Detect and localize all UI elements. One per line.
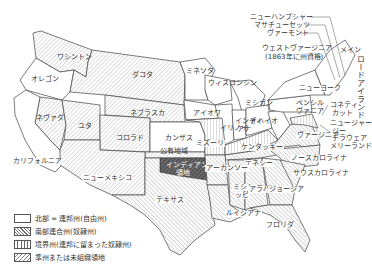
label-colorado: コロラド — [116, 135, 144, 142]
label-kansas: カンザス — [165, 135, 193, 142]
legend-label: 境界州(連邦に留まった奴隷州) — [35, 239, 131, 249]
label-west-virginia-2: (1863年に州資格) — [265, 54, 323, 61]
label-louisiana: ルイジアナ — [225, 210, 262, 217]
label-oregon: オレゴン — [30, 76, 60, 83]
label-wisconsin: ウィスコンシン — [208, 80, 257, 87]
swatch-south-icon — [14, 227, 31, 236]
label-arkansas: アーカンソー — [205, 165, 249, 172]
label-michigan: ミシガン — [245, 100, 273, 107]
label-vermont: ヴァーモント — [267, 30, 309, 37]
label-connecticut-1: コネティ — [330, 102, 358, 109]
label-iowa: アイオワ — [193, 110, 221, 117]
label-new-jersey-1: ニュージャー — [330, 120, 372, 127]
label-indian-territory-1: インディアン — [166, 162, 208, 169]
legend: 北部 = 連邦州(自由州) 南部連合州(奴隷州) 境界州(連邦に留まった奴隷州)… — [14, 212, 131, 264]
label-maine: メイン — [340, 47, 361, 54]
label-kentucky: ケンタッキー — [240, 144, 284, 151]
legend-item-territory: 準州または未組織領地 — [14, 251, 131, 263]
legend-item-south: 南部連合州(奴隷州) — [14, 225, 131, 237]
label-georgia: ジョージア — [268, 186, 305, 193]
label-california: カリフォルニア — [12, 158, 63, 165]
label-rhode-island: ロードアイランド — [355, 55, 363, 119]
label-connecticut-2: カット — [332, 110, 353, 117]
label-pennsylvania-2: ヴァニア — [296, 108, 324, 115]
legend-item-north: 北部 = 連邦州(自由州) — [14, 212, 131, 224]
legend-label: 準州または未組織領地 — [35, 252, 105, 262]
label-south-carolina: サウスカロライナ — [292, 170, 350, 177]
label-nebraska: ネブラスカ — [130, 110, 165, 117]
label-pennsylvania-1: ペンシル — [296, 100, 324, 107]
label-ohio: オハイオ — [250, 118, 278, 125]
label-public-land: 公有地域 — [160, 148, 188, 155]
label-mississippi-2: ッピ — [234, 192, 250, 199]
label-massachusetts: マサチューセッツ — [254, 22, 310, 29]
label-utah: ユタ — [78, 123, 92, 130]
label-nevada: ネヴァダ — [36, 115, 64, 122]
legend-item-border: 境界州(連邦に留まった奴隷州) — [14, 238, 131, 250]
label-north-carolina: ノースカロライナ — [290, 155, 348, 162]
label-new-hampshire: ニューハンプシャー — [250, 14, 313, 21]
label-west-virginia-1: ウェストヴァージニア — [262, 45, 332, 52]
label-texas: テキサス — [155, 197, 185, 204]
label-missouri: ミズーリ — [195, 140, 225, 147]
label-new-mexico: ニューメキシコ — [82, 175, 133, 182]
swatch-territory-icon — [14, 253, 31, 262]
swatch-border-icon — [14, 240, 31, 249]
label-delaware: デラウェア — [332, 135, 367, 142]
legend-label: 北部 = 連邦州(自由州) — [35, 213, 107, 223]
label-minnesota: ミネソタ — [186, 68, 214, 75]
label-washington: ワシントン — [57, 54, 92, 61]
swatch-north-icon — [14, 214, 31, 223]
label-dakota: ダコタ — [132, 72, 153, 79]
label-new-york: ニューヨーク — [298, 85, 342, 92]
label-indian-territory-2: 領地 — [176, 170, 190, 177]
label-florida: フロリダ — [265, 222, 295, 229]
legend-label: 南部連合州(奴隷州) — [35, 226, 96, 236]
region-utah — [62, 100, 100, 140]
label-maryland: メリーランド — [330, 143, 372, 150]
label-indiana-2: アナ — [237, 126, 251, 133]
